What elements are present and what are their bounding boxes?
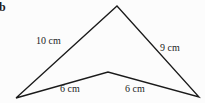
side-label-left-upper: 10 cm — [36, 35, 61, 47]
side-label-left-lower: 6 cm — [60, 83, 80, 95]
side-label-right-lower: 6 cm — [125, 83, 145, 95]
geometry-figure: b 10 cm 9 cm 6 cm 6 cm — [0, 0, 205, 103]
side-label-right-upper: 9 cm — [160, 42, 180, 54]
